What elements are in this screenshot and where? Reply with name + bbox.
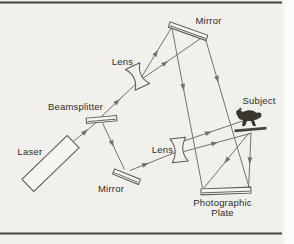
lens-bottom-label: Lens: [152, 145, 173, 156]
mirror-bottom-label: Mirror: [98, 184, 124, 195]
mirror-top-label: Mirror: [196, 16, 222, 27]
beamsplitter-label: Beamsplitter: [48, 102, 103, 113]
holography-diagram: Laser Beamsplitter Lens Mirror Mirror Le…: [0, 0, 294, 244]
photographic-plate-label: Photographic Plate: [193, 198, 251, 219]
lens-top-label: Lens: [112, 57, 133, 68]
photographic-plate-label-line1: Photographic: [193, 198, 251, 209]
subject-label: Subject: [242, 96, 275, 107]
laser-label: Laser: [18, 147, 43, 158]
photographic-plate-slab: [201, 187, 251, 195]
photographic-plate-label-line2: Plate: [193, 208, 251, 219]
